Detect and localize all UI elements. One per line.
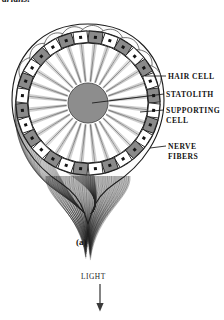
light-direction-arrow xyxy=(96,284,103,312)
label-nerve-fibers-line2: FIBERS xyxy=(168,152,198,162)
label-statolith-line1: STATOLITH xyxy=(166,90,214,100)
panel-caption: (a) xyxy=(76,237,87,247)
label-supporting-cell-line2: CELL xyxy=(166,116,220,126)
hair-cell xyxy=(16,88,29,103)
label-hair-cell: HAIR CELL xyxy=(168,72,214,82)
figure-page: arians. HAIR CELL STATOLITH SUPPORTING C… xyxy=(0,0,224,320)
hair-cell xyxy=(73,31,88,44)
label-hair-cell-line1: HAIR CELL xyxy=(168,72,214,82)
label-supporting-cell-line1: SUPPORTING xyxy=(166,106,220,116)
label-nerve-fibers-line1: NERVE xyxy=(168,142,198,152)
label-statolith: STATOLITH xyxy=(166,90,214,100)
label-nerve-fibers: NERVE FIBERS xyxy=(168,142,198,161)
label-supporting-cell: SUPPORTING CELL xyxy=(166,106,220,125)
supporting-cell xyxy=(16,103,29,118)
statolith xyxy=(68,83,108,123)
hair-cell xyxy=(88,162,103,175)
supporting-cell xyxy=(73,162,88,175)
light-label: LIGHT xyxy=(81,272,106,281)
supporting-cell xyxy=(88,31,103,44)
